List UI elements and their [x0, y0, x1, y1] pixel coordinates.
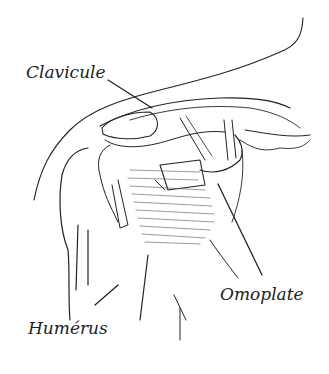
scapula-label: Omoplate — [220, 284, 304, 304]
shoulder-diagram: Clavicule Omoplate Humérus — [0, 0, 329, 374]
humerus-label: Humérus — [28, 318, 108, 338]
clavicle-label: Clavicule — [26, 62, 106, 82]
